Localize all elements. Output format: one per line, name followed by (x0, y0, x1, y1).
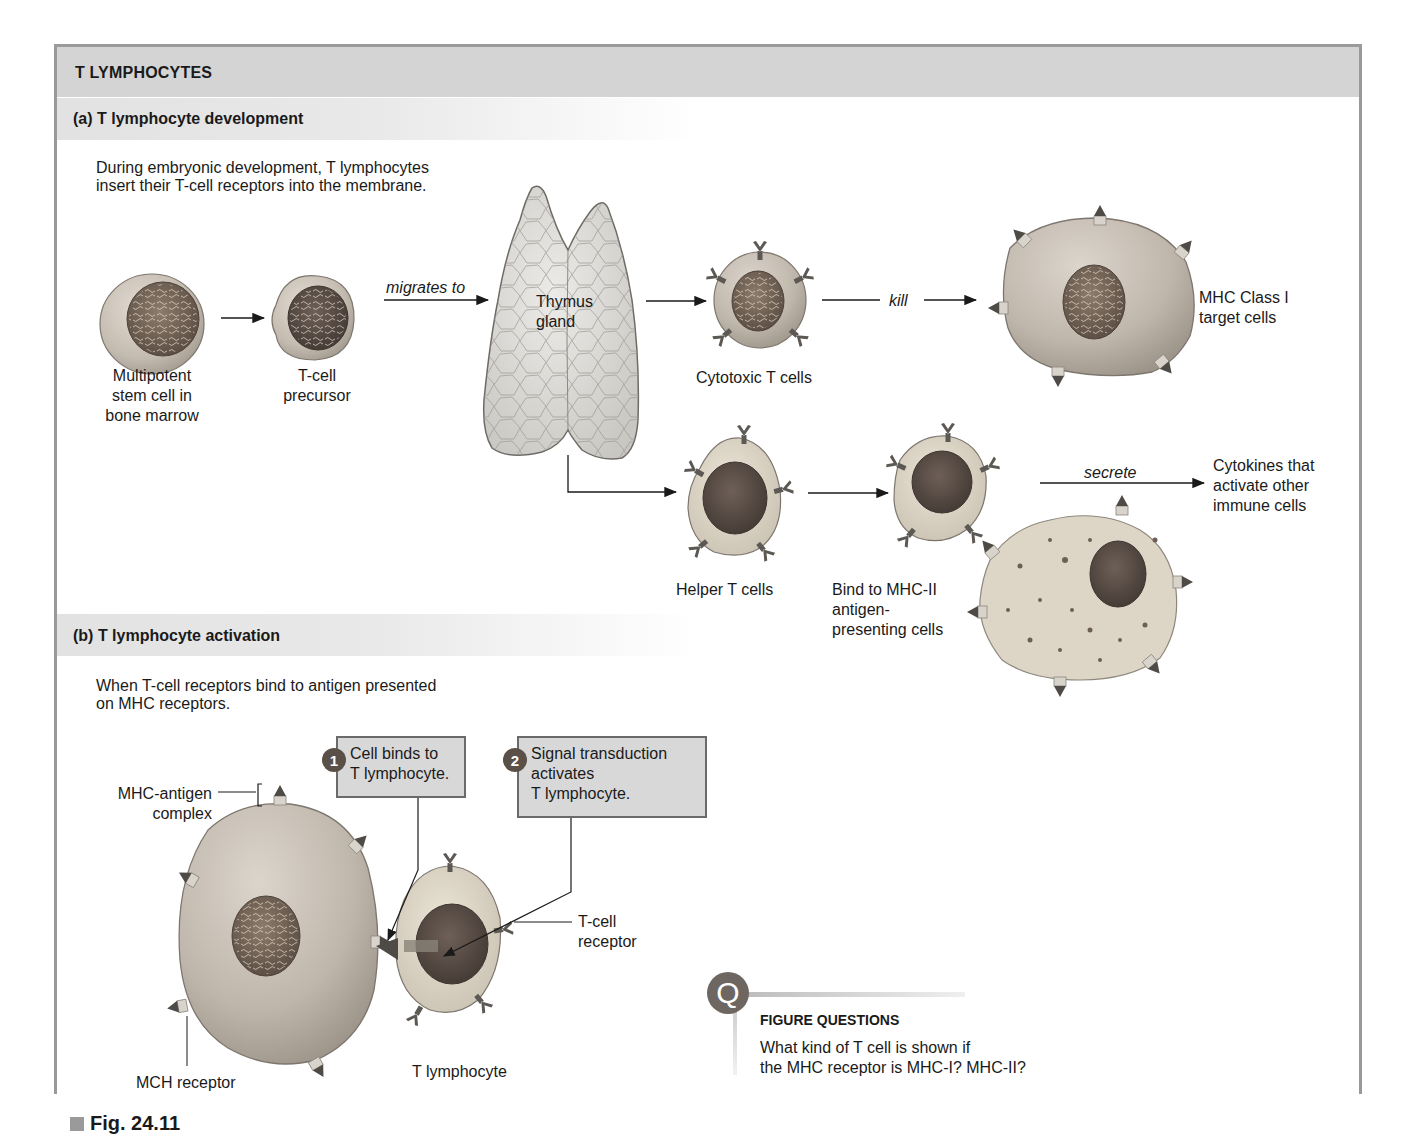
step1-badge: 1 (322, 748, 346, 772)
mch-receptor-label: MCH receptor (136, 1073, 236, 1093)
mhc-presenting-cell-illustration (166, 785, 391, 1080)
figure-label-square-icon (70, 1117, 84, 1131)
cytokines-label: Cytokines that activate other immune cel… (1213, 456, 1314, 516)
helper-cell-illustration (683, 425, 794, 562)
step1-callout: Cell binds to T lymphocyte. (336, 736, 466, 798)
question-icon: Q (707, 972, 749, 1014)
helper-label: Helper T cells (676, 580, 773, 600)
t-lymphocyte-illustration (376, 853, 514, 1027)
t-cell-receptor-label: T-cell receptor (578, 912, 637, 952)
cytotoxic-cell-illustration (705, 241, 815, 348)
thymus-label: Thymus gland (536, 292, 593, 332)
antigen-presenting-cell-illustration (967, 495, 1193, 697)
secrete-label: secrete (1084, 463, 1136, 483)
stem-cell-label: Multipotent stem cell in bone marrow (92, 366, 212, 426)
diagram-artwork (0, 0, 1406, 1145)
kill-label: kill (889, 291, 908, 311)
bind-mhc2-label: Bind to MHC-II antigen- presenting cells (832, 580, 943, 640)
step2-badge: 2 (503, 748, 527, 772)
precursor-label: T-cell precursor (262, 366, 372, 406)
activated-helper-cell-illustration (885, 423, 1000, 548)
figure-questions-text: What kind of T cell is shown if the MHC … (760, 1038, 1026, 1078)
target-cells-label: MHC Class I target cells (1199, 288, 1289, 328)
figure-questions-heading: FIGURE QUESTIONS (760, 1010, 899, 1030)
cytotoxic-label: Cytotoxic T cells (696, 368, 812, 388)
migrates-to-label: migrates to (386, 278, 465, 298)
questions-rule (745, 992, 965, 997)
mhc-antigen-complex-label: MHC-antigen complex (96, 784, 212, 824)
figure-label: Fig. 24.11 (70, 1112, 180, 1135)
questions-vertical-rule (733, 1010, 737, 1075)
precursor-cell-illustration (272, 276, 354, 360)
t-lymphocyte-label: T lymphocyte (412, 1062, 507, 1082)
step2-callout: Signal transduction activates T lymphocy… (517, 736, 707, 818)
stem-cell-illustration (100, 274, 204, 374)
target-cell-illustration (988, 205, 1196, 387)
